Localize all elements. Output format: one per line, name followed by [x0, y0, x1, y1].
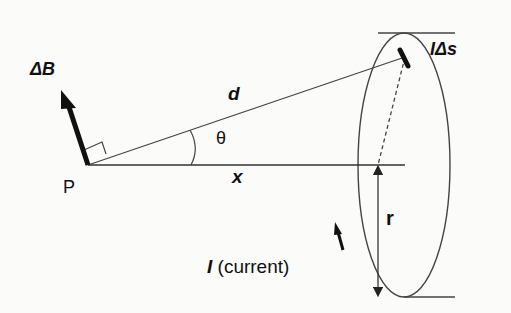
r-label: r [386, 208, 394, 228]
theta-arc [190, 130, 195, 165]
current-direction-arrow [338, 232, 343, 250]
current-text: (current) [218, 256, 290, 277]
current-label: I (current) [207, 257, 289, 276]
theta-label: θ [216, 129, 226, 147]
delta-b-arrow [68, 104, 88, 165]
ids-label: IΔs [430, 40, 457, 58]
current-symbol: I [207, 256, 212, 277]
point-p-label: P [63, 178, 75, 196]
delta-b-label: ΔB [30, 60, 55, 78]
right-angle-marker [84, 142, 106, 154]
x-label: x [232, 167, 243, 186]
d-line [88, 57, 405, 165]
dashed-radius [378, 57, 405, 165]
d-label: d [228, 84, 240, 103]
